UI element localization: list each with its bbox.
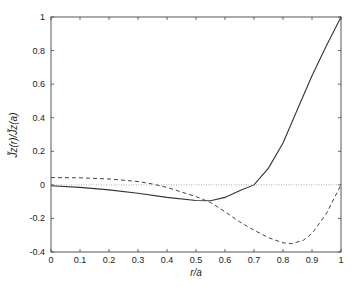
x-tick-label: 0.8 xyxy=(277,255,290,265)
y-tick-label: 0.8 xyxy=(32,46,45,56)
line-chart: 00.10.20.30.40.50.60.70.80.91 10.80.60.4… xyxy=(0,0,356,292)
plot-frame xyxy=(51,17,341,252)
x-tick-label: 0.4 xyxy=(161,255,174,265)
y-tick-label: 1 xyxy=(40,12,45,22)
x-tick-label: 1 xyxy=(338,255,343,265)
y-tick-label: 0.4 xyxy=(32,113,45,123)
y-tick-label: 0 xyxy=(40,180,45,190)
y-tick-label: 0.2 xyxy=(32,146,45,156)
x-tick-label: 0.6 xyxy=(219,255,232,265)
y-tick-label: 0.6 xyxy=(32,79,45,89)
y-tick-label: -0.4 xyxy=(29,247,45,257)
axis-ticks xyxy=(51,17,341,252)
x-tick-label: 0.9 xyxy=(306,255,319,265)
x-tick-label: 0 xyxy=(48,255,53,265)
y-tick-label: -0.2 xyxy=(29,213,45,223)
x-axis-label: r/a xyxy=(190,267,202,278)
x-tick-labels: 00.10.20.30.40.50.60.70.80.91 xyxy=(48,255,343,265)
y-tick-labels: 10.80.60.40.20-0.2-0.4 xyxy=(29,12,45,257)
x-tick-label: 0.2 xyxy=(103,255,116,265)
x-tick-label: 0.7 xyxy=(248,255,261,265)
x-tick-label: 0.5 xyxy=(190,255,203,265)
y-axis-label: J̃z(r)/J̃z(a) xyxy=(7,113,19,159)
x-tick-label: 0.1 xyxy=(74,255,87,265)
solid-series-line xyxy=(51,17,341,201)
dashed-series-line xyxy=(51,178,341,244)
x-tick-label: 0.3 xyxy=(132,255,145,265)
